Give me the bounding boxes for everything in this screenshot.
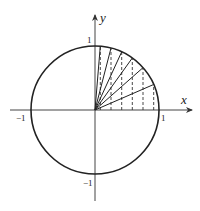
tick-label-y-pos: 1: [87, 35, 92, 45]
tick-label-x-pos: 1: [161, 113, 166, 123]
tick-label-x-neg: −1: [16, 113, 26, 123]
y-axis-label: y: [98, 10, 106, 25]
tick-label-y-neg: −1: [83, 178, 93, 188]
x-axis-label: x: [180, 92, 187, 107]
projection-lines: [100, 46, 153, 110]
rays: [95, 46, 154, 110]
unit-circle-diagram: x y 1 −1 1 −1: [0, 0, 200, 211]
ray: [95, 68, 143, 110]
